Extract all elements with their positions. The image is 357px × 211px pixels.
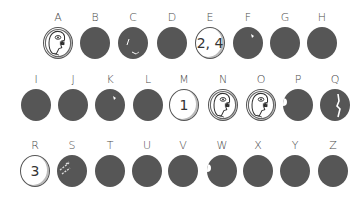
letter-cell-m[interactable]: M 1 xyxy=(166,74,202,132)
disc-o[interactable] xyxy=(246,89,276,121)
letter-label: I xyxy=(18,74,54,86)
letter-label: D xyxy=(154,12,190,24)
letter-cell-b[interactable]: B xyxy=(77,12,113,70)
letter-cell-i[interactable]: I xyxy=(18,74,54,132)
disc-y[interactable] xyxy=(280,155,310,187)
letter-label: J xyxy=(55,74,91,86)
disc-m[interactable]: 1 xyxy=(169,89,199,121)
letter-label: X xyxy=(240,140,276,152)
letter-cell-s[interactable]: S xyxy=(54,140,90,198)
letter-label: Z xyxy=(315,140,351,152)
disc-n[interactable] xyxy=(208,89,238,121)
disc-d[interactable] xyxy=(157,27,187,59)
notch-mark-icon xyxy=(283,89,313,121)
disc-e[interactable]: 2, 4 xyxy=(195,27,225,59)
disc-w[interactable] xyxy=(207,155,237,187)
letter-cell-k[interactable]: K xyxy=(92,74,128,132)
letter-label: C xyxy=(115,12,151,24)
letter-cell-t[interactable]: T xyxy=(92,140,128,198)
letter-label: K xyxy=(92,74,128,86)
letter-label: N xyxy=(205,74,241,86)
disc-number: 2, 4 xyxy=(196,28,224,58)
letter-cell-c[interactable]: C xyxy=(115,12,151,70)
cartoon-face-icon xyxy=(209,90,237,120)
letter-cell-z[interactable]: Z xyxy=(315,140,351,198)
disc-r[interactable]: 3 xyxy=(20,155,50,187)
disc-number: 3 xyxy=(21,156,49,186)
letter-cell-p[interactable]: P xyxy=(280,74,316,132)
letter-label: M xyxy=(166,74,202,86)
disc-l[interactable] xyxy=(133,89,163,121)
disc-c[interactable] xyxy=(118,27,148,59)
letter-label: B xyxy=(77,12,113,24)
cartoon-face-icon xyxy=(44,28,72,58)
letter-label: S xyxy=(54,140,90,152)
notch-mark-icon xyxy=(207,155,237,187)
letter-label: A xyxy=(40,12,76,24)
letter-label: E xyxy=(192,12,228,24)
letter-label: W xyxy=(204,140,240,152)
letter-cell-v[interactable]: V xyxy=(165,140,201,198)
letter-cell-r[interactable]: R 3 xyxy=(17,140,53,198)
disc-b[interactable] xyxy=(80,27,110,59)
chip-mark-icon xyxy=(118,27,148,59)
letter-cell-n[interactable]: N xyxy=(205,74,241,132)
letter-cell-l[interactable]: L xyxy=(130,74,166,132)
disc-i[interactable] xyxy=(21,89,51,121)
disc-z[interactable] xyxy=(318,155,348,187)
letter-cell-h[interactable]: H xyxy=(304,12,340,70)
letter-cell-u[interactable]: U xyxy=(129,140,165,198)
glint-mark-icon xyxy=(95,89,125,121)
letter-label: P xyxy=(280,74,316,86)
letter-cell-a[interactable]: A xyxy=(40,12,76,70)
letter-label: G xyxy=(267,12,303,24)
letter-cell-o[interactable]: O xyxy=(243,74,279,132)
letter-label: O xyxy=(243,74,279,86)
disc-h[interactable] xyxy=(307,27,337,59)
letter-cell-q[interactable]: Q xyxy=(317,74,353,132)
glint-mark-icon xyxy=(233,27,263,59)
disc-u[interactable] xyxy=(132,155,162,187)
letter-label: H xyxy=(304,12,340,24)
disc-t[interactable] xyxy=(95,155,125,187)
letter-label: Q xyxy=(317,74,353,86)
letter-cell-x[interactable]: X xyxy=(240,140,276,198)
letter-label: V xyxy=(165,140,201,152)
disc-x[interactable] xyxy=(243,155,273,187)
letter-label: T xyxy=(92,140,128,152)
disc-a[interactable] xyxy=(43,27,73,59)
letter-label: Y xyxy=(277,140,313,152)
cartoon-face-icon xyxy=(247,90,275,120)
disc-k[interactable] xyxy=(95,89,125,121)
letter-cell-j[interactable]: J xyxy=(55,74,91,132)
letter-cell-e[interactable]: E 2, 4 xyxy=(192,12,228,70)
letter-cell-w[interactable]: W xyxy=(204,140,240,198)
letter-label: U xyxy=(129,140,165,152)
letter-cell-f[interactable]: F xyxy=(230,12,266,70)
disc-q[interactable] xyxy=(320,89,350,121)
disc-number: 1 xyxy=(170,90,198,120)
letter-label: L xyxy=(130,74,166,86)
disc-j[interactable] xyxy=(58,89,88,121)
disc-g[interactable] xyxy=(270,27,300,59)
disc-v[interactable] xyxy=(168,155,198,187)
letter-cell-d[interactable]: D xyxy=(154,12,190,70)
letter-cell-g[interactable]: G xyxy=(267,12,303,70)
scratch-mark-icon xyxy=(57,155,87,187)
disc-p[interactable] xyxy=(283,89,313,121)
letter-cell-y[interactable]: Y xyxy=(277,140,313,198)
crack-mark-icon xyxy=(320,89,350,121)
disc-s[interactable] xyxy=(57,155,87,187)
disc-f[interactable] xyxy=(233,27,263,59)
letter-label: R xyxy=(17,140,53,152)
letter-label: F xyxy=(230,12,266,24)
